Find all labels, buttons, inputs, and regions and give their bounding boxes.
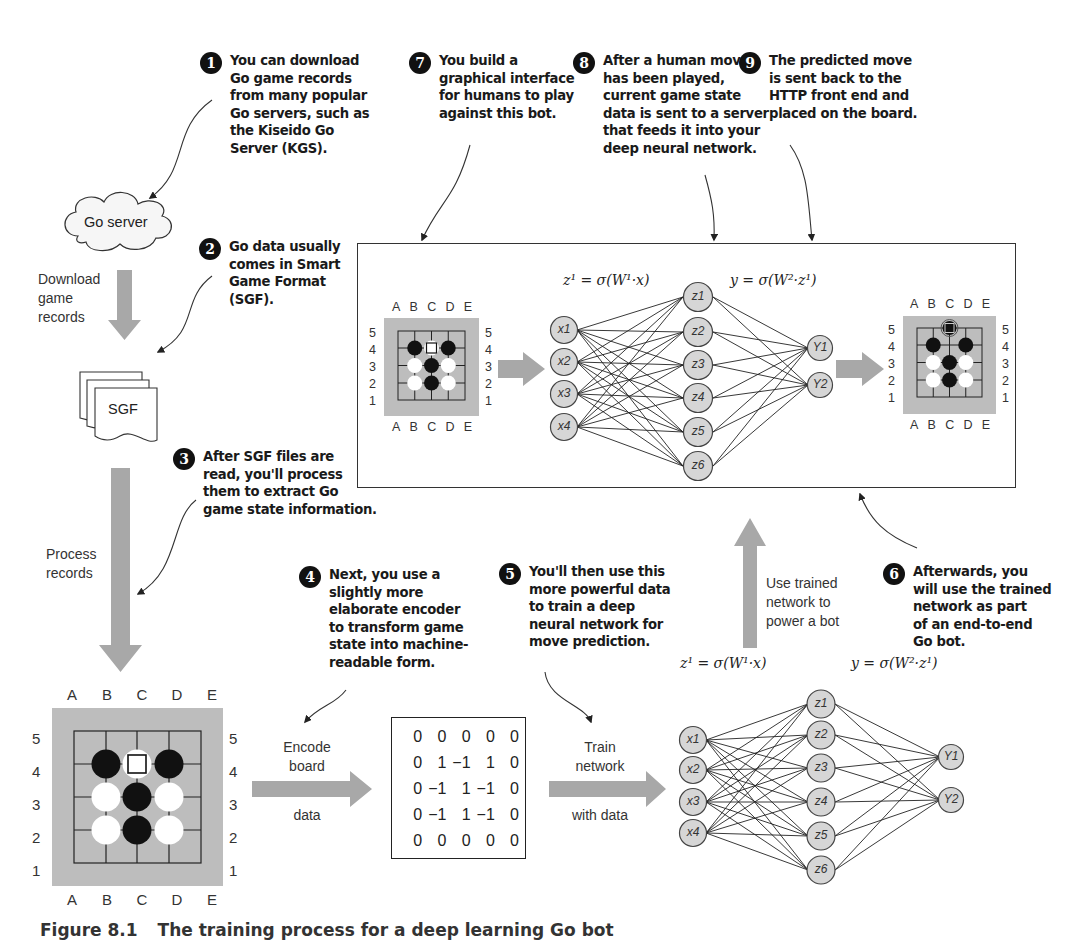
download-label: Download game records — [38, 270, 100, 327]
node-x2-bottom: x2 — [681, 762, 705, 776]
matrix-row: 0−11−10 — [398, 802, 519, 828]
callout-3: 3 After SGF files are read, you'll proce… — [203, 448, 377, 518]
pointer-arrow-1 — [150, 100, 212, 198]
download-arrow — [108, 270, 141, 340]
callout-9: 9 The predicted move is sent back to the… — [769, 52, 917, 122]
callout-6: 6 Afterwards, you will use the trained n… — [913, 563, 1051, 651]
train-label-top: Train network — [560, 738, 640, 776]
step-badge-4: 4 — [299, 566, 321, 588]
pointer-arrow-8 — [705, 175, 714, 240]
board-output-row-labels-left: 54321 — [888, 322, 895, 407]
step-badge-8: 8 — [573, 52, 595, 74]
formula-output-bottom: y = σ(W²·z¹) — [851, 655, 937, 671]
node-z1-bottom: z1 — [809, 696, 833, 710]
formula-hidden-top: z¹ = σ(W¹·x) — [563, 272, 649, 288]
node-x3-bottom: x3 — [681, 794, 705, 808]
matrix-row: 00000 — [398, 724, 519, 750]
node-z1: z1 — [686, 289, 710, 303]
callout-4: 4 Next, you use a slightly more elaborat… — [329, 566, 468, 671]
node-z3-bottom: z3 — [809, 760, 833, 774]
board-input-row-labels-left: 54321 — [369, 325, 376, 410]
figure-caption: Figure 8.1 The training process for a de… — [40, 920, 614, 940]
pointer-arrow-2 — [158, 276, 212, 352]
node-y1: Y1 — [808, 340, 832, 354]
step-badge-5: 5 — [499, 563, 521, 585]
node-z4-bottom: z4 — [809, 794, 833, 808]
step-badge-2: 2 — [199, 238, 221, 260]
board-input-row-labels-right: 54321 — [485, 325, 492, 410]
board-output-col-labels-top: ABCDE — [910, 297, 990, 311]
step-badge-6: 6 — [883, 563, 905, 585]
node-z5-bottom: z5 — [809, 828, 833, 842]
figure-caption-text: The training process for a deep learning… — [158, 920, 614, 940]
process-arrow — [99, 468, 142, 672]
go-server-label: Go server — [84, 213, 148, 232]
node-x4-bottom: x4 — [681, 825, 705, 839]
node-x1-bottom: x1 — [681, 732, 705, 746]
node-z6: z6 — [686, 458, 710, 472]
go-board-large — [52, 708, 223, 886]
node-x2: x2 — [552, 354, 576, 368]
callout-5: 5 You'll then use this more powerful dat… — [529, 563, 670, 651]
use-trained-arrow — [734, 518, 766, 648]
process-label: Process records — [46, 545, 97, 583]
encode-arrow — [252, 771, 372, 807]
formula-output-top: y = σ(W²·z¹) — [730, 272, 816, 288]
pointer-arrow-4 — [305, 690, 346, 722]
board-input-col-labels-bottom: ABCDE — [392, 420, 472, 434]
node-y2-bottom: Y2 — [939, 792, 963, 806]
board-large-row-labels-right: 54321 — [229, 722, 243, 887]
board-input-col-labels-top: ABCDE — [392, 300, 472, 314]
pointer-arrow-3 — [138, 500, 196, 594]
train-arrow — [549, 771, 666, 807]
formula-hidden-bottom: z¹ = σ(W¹·x) — [680, 655, 766, 671]
node-z2: z2 — [686, 324, 710, 338]
node-z3: z3 — [686, 357, 710, 371]
callout-2: 2 Go data usually comes in Smart Game Fo… — [229, 238, 340, 308]
node-z2-bottom: z2 — [809, 727, 833, 741]
matrix-row: 00000 — [398, 828, 519, 854]
node-x4: x4 — [552, 419, 576, 433]
pointer-arrow-6 — [860, 494, 917, 548]
step-badge-7: 7 — [409, 52, 431, 74]
train-label-bottom: with data — [560, 806, 640, 825]
matrix-row: 01−110 — [398, 750, 519, 776]
pointer-arrow-7 — [422, 145, 470, 240]
node-y2: Y2 — [808, 377, 832, 391]
node-x1: x1 — [552, 322, 576, 336]
pointer-arrow-9 — [790, 145, 812, 240]
node-x3: x3 — [552, 386, 576, 400]
encode-label-bottom: data — [272, 806, 342, 825]
encoded-board-matrix: 00000 01−110 0−11−10 0−11−10 00000 — [391, 717, 526, 859]
callout-1: 1 You can download Go game records from … — [230, 52, 369, 157]
board-large-col-labels-bottom: ABCDE — [62, 891, 222, 908]
step-badge-9: 9 — [739, 52, 761, 74]
step-badge-3: 3 — [173, 448, 195, 470]
board-output-col-labels-bottom: ABCDE — [910, 418, 990, 432]
sgf-label: SGF — [108, 400, 138, 419]
node-z5: z5 — [686, 424, 710, 438]
encode-label-top: Encode board — [272, 738, 342, 776]
board-large-row-labels-left: 54321 — [32, 722, 46, 887]
step-badge-1: 1 — [200, 52, 222, 74]
node-z6-bottom: z6 — [809, 862, 833, 876]
board-large-col-labels-top: ABCDE — [62, 686, 222, 703]
use-trained-label: Use trained network to power a bot — [766, 574, 839, 631]
board-output-row-labels-right: 54321 — [1002, 322, 1009, 407]
callout-7: 7 You build a graphical interface for hu… — [439, 52, 574, 122]
node-z4: z4 — [686, 390, 710, 404]
matrix-row: 0−11−10 — [398, 776, 519, 802]
figure-number: Figure 8.1 — [40, 920, 138, 940]
node-y1-bottom: Y1 — [939, 749, 963, 763]
pointer-arrow-5 — [545, 672, 591, 722]
